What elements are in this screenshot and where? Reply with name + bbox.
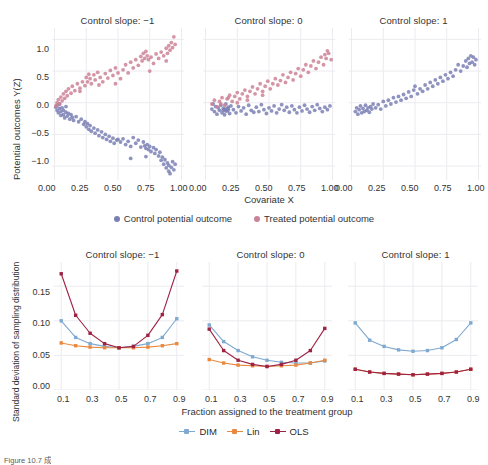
top-panel-title-1: Control slope: 0 bbox=[196, 15, 341, 26]
legend-label-control: Control potential outcome bbox=[124, 213, 232, 224]
bottom-xtick-2-3: 0.7 bbox=[438, 394, 451, 404]
top-chart-xlabel: Covariate X bbox=[203, 194, 335, 205]
top-xtick-2-4: 1.00 bbox=[467, 183, 485, 193]
lin-line-icon bbox=[227, 431, 243, 432]
top-xtick-2-1: 0.25 bbox=[368, 183, 386, 193]
figure-container: Potential outcomes Y(Z) Control slope: −… bbox=[0, 0, 488, 465]
top-xtick-0-1: 0.25 bbox=[71, 183, 89, 193]
legend-label-dim: DIM bbox=[199, 426, 216, 437]
legend-label-ols: OLS bbox=[290, 426, 309, 437]
top-xtick-1-0: 0.00 bbox=[189, 183, 207, 193]
legend-label-lin: Lin bbox=[247, 426, 260, 437]
top-ytick-4: −1.0 bbox=[22, 156, 49, 166]
top-scatter-panel-0 bbox=[52, 28, 184, 180]
legend-item-control: Control potential outcome bbox=[114, 213, 232, 224]
top-chart-ylabel: Potential outcomes Y(Z) bbox=[11, 78, 22, 180]
bottom-panel-title-0: Control slope: −1 bbox=[50, 249, 195, 260]
bottom-chart-ylabel: Standard deviation of sampling distribut… bbox=[11, 262, 21, 422]
top-xtick-2-3: 0.75 bbox=[434, 183, 452, 193]
top-xtick-1-2: 0.50 bbox=[255, 183, 273, 193]
top-panel-title-0: Control slope: −1 bbox=[45, 15, 190, 26]
top-xtick-2-2: 0.50 bbox=[401, 183, 419, 193]
control-dot-icon bbox=[114, 216, 120, 222]
top-ytick-1: 0.5 bbox=[25, 72, 49, 82]
bottom-line-panel-1 bbox=[202, 262, 332, 390]
bottom-ytick-0: 0.15 bbox=[22, 287, 50, 297]
top-xtick-1-3: 0.75 bbox=[288, 183, 306, 193]
legend-item-dim: DIM bbox=[179, 426, 216, 437]
legend-item-ols: OLS bbox=[270, 426, 309, 437]
figure-caption: Figure 10.7 成 bbox=[4, 454, 51, 465]
bottom-xtick-1-3: 0.7 bbox=[292, 394, 305, 404]
bottom-xtick-1-2: 0.5 bbox=[263, 394, 276, 404]
bottom-xtick-1-0: 0.1 bbox=[205, 394, 218, 404]
top-ytick-3: −0.5 bbox=[22, 128, 49, 138]
top-ytick-2: 0.0 bbox=[25, 100, 49, 110]
top-scatter-panel-1 bbox=[203, 28, 335, 180]
bottom-xtick-0-3: 0.7 bbox=[144, 394, 157, 404]
bottom-xtick-2-2: 0.5 bbox=[409, 394, 422, 404]
bottom-xtick-1-4: 0.9 bbox=[321, 394, 334, 404]
bottom-xtick-2-0: 0.1 bbox=[351, 394, 364, 404]
bottom-line-panel-0 bbox=[54, 262, 184, 390]
bottom-line-panel-2 bbox=[348, 262, 478, 390]
top-scatter-panel-2 bbox=[349, 28, 481, 180]
bottom-xtick-0-4: 0.9 bbox=[173, 394, 186, 404]
bottom-xtick-0-1: 0.3 bbox=[86, 394, 99, 404]
top-xtick-0-0: 0.00 bbox=[38, 183, 56, 193]
bottom-xtick-1-1: 0.3 bbox=[234, 394, 247, 404]
legend-item-lin: Lin bbox=[227, 426, 260, 437]
bottom-ytick-3: 0.00 bbox=[22, 381, 50, 391]
top-panel-title-2: Control slope: 1 bbox=[341, 15, 486, 26]
top-ytick-0: 1.0 bbox=[25, 44, 49, 54]
legend-item-treated: Treated potential outcome bbox=[254, 213, 374, 224]
top-xtick-0-2: 0.50 bbox=[104, 183, 122, 193]
top-chart-legend: Control potential outcome Treated potent… bbox=[0, 213, 488, 224]
legend-label-treated: Treated potential outcome bbox=[264, 213, 374, 224]
bottom-panel-title-1: Control slope: 0 bbox=[198, 249, 343, 260]
bottom-xtick-0-0: 0.1 bbox=[57, 394, 70, 404]
top-xtick-0-3: 0.75 bbox=[137, 183, 155, 193]
bottom-xtick-2-1: 0.3 bbox=[380, 394, 393, 404]
bottom-chart-xlabel: Fraction assigned to the treatment group bbox=[122, 406, 412, 417]
top-xtick-2-0: 0.00 bbox=[335, 183, 353, 193]
top-xtick-1-1: 0.25 bbox=[222, 183, 240, 193]
bottom-ytick-2: 0.05 bbox=[22, 350, 50, 360]
bottom-xtick-0-2: 0.5 bbox=[115, 394, 128, 404]
bottom-panel-title-2: Control slope: 1 bbox=[343, 249, 488, 260]
bottom-xtick-2-4: 0.9 bbox=[467, 394, 480, 404]
bottom-chart-legend: DIM Lin OLS bbox=[0, 426, 488, 437]
treated-dot-icon bbox=[254, 216, 260, 222]
bottom-ytick-1: 0.10 bbox=[22, 318, 50, 328]
dim-line-icon bbox=[179, 431, 195, 432]
top-xtick-0-4: 1.00 bbox=[170, 183, 188, 193]
ols-line-icon bbox=[270, 431, 286, 432]
